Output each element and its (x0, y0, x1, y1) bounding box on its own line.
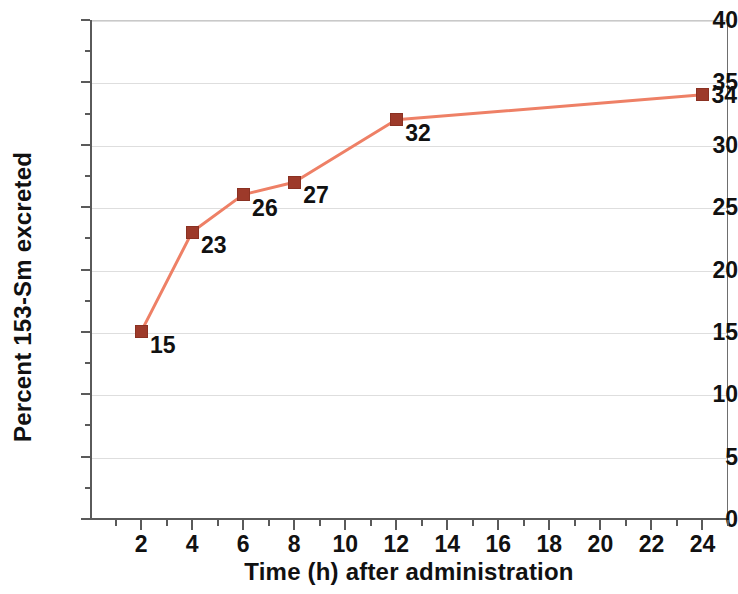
data-point-label: 27 (303, 184, 329, 207)
data-point-label: 23 (201, 234, 227, 257)
data-point-marker (237, 188, 250, 201)
data-point-marker (288, 176, 301, 189)
data-point-marker (135, 325, 148, 338)
data-point-label: 34 (711, 84, 737, 107)
data-point-marker (390, 113, 403, 126)
x-axis-title: Time (h) after administration (90, 558, 728, 586)
data-point-label: 26 (252, 197, 278, 220)
data-point-marker (186, 226, 199, 239)
series-line-layer (0, 0, 738, 594)
data-point-label: 32 (405, 122, 431, 145)
chart-figure: Percent 153-Sm excreted 0510152025303540… (0, 0, 738, 594)
data-point-marker (696, 88, 709, 101)
data-point-label: 15 (150, 334, 176, 357)
